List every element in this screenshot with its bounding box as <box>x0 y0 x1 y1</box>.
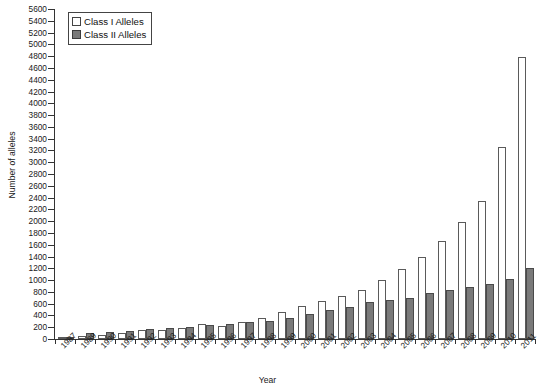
y-axis-tick <box>48 257 54 258</box>
x-axis-title: Year <box>0 375 535 385</box>
bar-2008-class-i <box>458 222 466 339</box>
y-axis-tick-label: 5000 <box>5 40 47 48</box>
bar-2000-class-i <box>298 306 306 339</box>
legend-item-class-ii[interactable]: Class II Alleles <box>72 28 146 41</box>
y-axis-tick <box>48 103 54 104</box>
x-axis-tick <box>235 339 236 344</box>
x-axis-tick <box>95 339 96 344</box>
y-axis-tick <box>48 198 54 199</box>
y-axis-tick <box>48 44 54 45</box>
bar-2011-class-i <box>518 57 526 339</box>
x-axis-tick <box>275 339 276 344</box>
y-axis-tick <box>48 304 54 305</box>
y-axis-tick-label: 800 <box>5 288 47 296</box>
y-axis-tick <box>48 115 54 116</box>
class-ii-swatch-icon <box>72 30 81 39</box>
y-axis-tick-label: 1600 <box>5 241 47 249</box>
y-axis-tick <box>48 80 54 81</box>
y-axis-tick-label: 2400 <box>5 194 47 202</box>
y-axis-tick-label: 3400 <box>5 135 47 143</box>
x-axis-tick <box>175 339 176 344</box>
y-axis-tick-label: 200 <box>5 323 47 331</box>
x-axis-tick <box>135 339 136 344</box>
y-axis-tick <box>48 9 54 10</box>
x-axis-tick <box>335 339 336 344</box>
bar-1999-class-i <box>278 312 286 339</box>
y-axis-tick-label: 2000 <box>5 217 47 225</box>
y-axis-tick-label: 600 <box>5 300 47 308</box>
class-i-swatch-icon <box>72 17 81 26</box>
y-axis-tick-label: 2200 <box>5 205 47 213</box>
x-axis-tick <box>295 339 296 344</box>
y-axis-tick <box>48 245 54 246</box>
x-axis-tick <box>315 339 316 344</box>
bars-layer <box>55 9 535 339</box>
x-axis-tick <box>195 339 196 344</box>
y-axis-tick-label: 5200 <box>5 29 47 37</box>
x-axis-tick <box>455 339 456 344</box>
y-axis-tick-label: 3600 <box>5 123 47 131</box>
y-axis-tick <box>48 233 54 234</box>
y-axis-tick-label: 0 <box>5 335 47 343</box>
y-axis-tick-label: 4600 <box>5 64 47 72</box>
y-axis-tick <box>48 174 54 175</box>
y-axis-tick <box>48 139 54 140</box>
x-axis-tick <box>415 339 416 344</box>
x-axis-tick <box>515 339 516 344</box>
y-axis-tick-label: 4200 <box>5 88 47 96</box>
x-axis-tick <box>355 339 356 344</box>
y-axis-tick <box>48 21 54 22</box>
y-axis: 0200400600800100012001400160018002000220… <box>0 0 47 388</box>
legend-label-class-ii: Class II Alleles <box>84 30 146 40</box>
y-axis-tick <box>48 327 54 328</box>
y-axis-tick-label: 1000 <box>5 276 47 284</box>
bar-2010-class-i <box>498 147 506 339</box>
y-axis-tick-label: 1400 <box>5 253 47 261</box>
y-axis-tick <box>48 68 54 69</box>
x-axis-tick <box>155 339 156 344</box>
y-axis-tick <box>48 162 54 163</box>
legend-item-class-i[interactable]: Class I Alleles <box>72 15 146 28</box>
y-axis-tick <box>48 221 54 222</box>
y-axis-tick-label: 2800 <box>5 170 47 178</box>
bar-2003-class-i <box>358 290 366 340</box>
y-axis-tick <box>48 268 54 269</box>
y-axis-tick-label: 1200 <box>5 264 47 272</box>
x-axis-tick <box>215 339 216 344</box>
bar-2009-class-i <box>478 201 486 339</box>
y-axis-tick <box>48 186 54 187</box>
bar-2001-class-i <box>318 301 326 339</box>
legend-label-class-i: Class I Alleles <box>84 17 144 27</box>
bar-2006-class-i <box>418 257 426 339</box>
x-axis-tick <box>115 339 116 344</box>
x-axis-tick <box>435 339 436 344</box>
bar-1998-class-i <box>258 318 266 339</box>
y-axis-tick-label: 3000 <box>5 158 47 166</box>
y-axis-tick-label: 4400 <box>5 76 47 84</box>
y-axis-tick <box>48 339 54 340</box>
y-axis-tick <box>48 292 54 293</box>
x-axis-tick <box>475 339 476 344</box>
y-axis-tick-label: 1800 <box>5 229 47 237</box>
y-axis-tick <box>48 56 54 57</box>
legend: Class I Alleles Class II Alleles <box>68 12 152 45</box>
y-axis-tick-label: 3200 <box>5 146 47 154</box>
x-axis-tick <box>55 339 56 344</box>
y-axis-tick <box>48 33 54 34</box>
y-axis-tick <box>48 280 54 281</box>
bar-2010-class-ii <box>506 279 514 339</box>
y-axis-tick-label: 5400 <box>5 17 47 25</box>
y-axis-tick <box>48 127 54 128</box>
x-axis-tick <box>75 339 76 344</box>
y-axis-tick-label: 400 <box>5 311 47 319</box>
y-axis-tick-label: 4800 <box>5 52 47 60</box>
y-axis-tick <box>48 315 54 316</box>
y-axis-tick <box>48 150 54 151</box>
x-axis-tick <box>495 339 496 344</box>
bar-2004-class-i <box>378 280 386 339</box>
y-axis-tick-label: 2600 <box>5 182 47 190</box>
y-axis-tick-label: 3800 <box>5 111 47 119</box>
bar-2009-class-ii <box>486 284 494 339</box>
y-axis-tick <box>48 92 54 93</box>
